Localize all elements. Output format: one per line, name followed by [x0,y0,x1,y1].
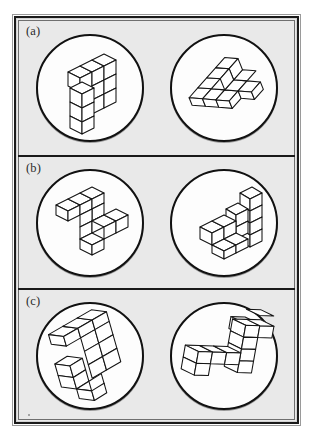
mental-rotation-stimulus-b-left[interactable] [36,169,144,277]
mental-rotation-stimulus-c-left[interactable] [36,302,144,410]
panel-b: (b) [18,155,295,288]
mental-rotation-stimulus-b-right[interactable] [170,169,278,277]
stray-mark [28,414,30,416]
mental-rotation-stimulus-c-right[interactable] [170,302,278,410]
panel-c: (c) [18,288,295,422]
mental-rotation-stimulus-a-left[interactable] [36,34,144,142]
mental-rotation-stimulus-a-right[interactable] [170,34,278,142]
figure-frame: (a) [14,16,299,424]
panel-a: (a) [18,20,295,155]
